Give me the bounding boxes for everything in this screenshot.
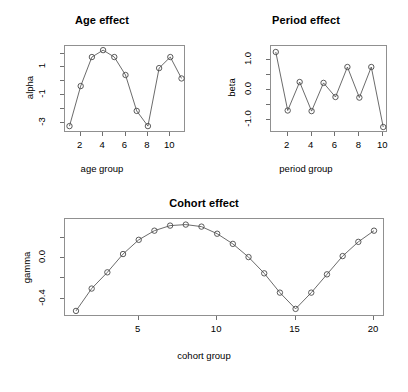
y-tickmark xyxy=(60,66,64,67)
x-tick-label: 5 xyxy=(135,323,140,334)
period-effect-plot-area xyxy=(270,45,387,132)
x-tickmark xyxy=(334,132,335,136)
cohort-effect-series xyxy=(65,219,385,317)
x-tickmark xyxy=(382,132,383,136)
y-tick-label: 1.0 xyxy=(242,41,253,75)
age-effect-title: Age effect xyxy=(0,14,204,26)
cohort-effect-plot-area xyxy=(64,218,384,316)
y-minor-tickmark xyxy=(60,80,64,81)
y-tick-label: 0.0 xyxy=(242,71,253,105)
x-tick-label: 8 xyxy=(356,139,361,150)
y-tickmark xyxy=(60,122,64,123)
cohort-effect-xlabel: cohort group xyxy=(0,350,408,361)
x-tickmark xyxy=(169,132,170,136)
y-tick-label: 0.0 xyxy=(36,240,47,274)
age-effect-ylabel: alpha xyxy=(24,58,35,118)
x-tick-label: 4 xyxy=(99,139,104,150)
y-minor-tickmark xyxy=(266,104,270,105)
x-tick-label: 2 xyxy=(284,139,289,150)
age-effect-series xyxy=(65,46,186,133)
age-effect-plot-area xyxy=(64,45,185,132)
panel-age-effect: Age effect 246810-3-11 age group alpha xyxy=(0,0,204,190)
y-tick-label: 1 xyxy=(36,49,47,83)
panel-cohort-effect: Cohort effect 5101520-0.40.0 cohort grou… xyxy=(0,190,408,392)
x-tick-label: 6 xyxy=(332,139,337,150)
x-tick-label: 10 xyxy=(377,139,388,150)
x-tickmark xyxy=(80,132,81,136)
x-tickmark xyxy=(295,316,296,320)
y-minor-tickmark xyxy=(60,237,64,238)
period-effect-xlabel: period group xyxy=(204,163,408,174)
x-tickmark xyxy=(287,132,288,136)
y-minor-tickmark xyxy=(60,108,64,109)
y-tickmark xyxy=(266,59,270,60)
x-tick-label: 8 xyxy=(144,139,149,150)
x-tick-label: 6 xyxy=(122,139,127,150)
panel-period-effect: Period effect 246810-1.00.01.0 period gr… xyxy=(204,0,408,190)
y-tickmark xyxy=(266,89,270,90)
x-tick-label: 20 xyxy=(368,323,379,334)
x-tick-label: 10 xyxy=(164,139,175,150)
period-effect-ylabel: beta xyxy=(226,58,237,118)
x-tickmark xyxy=(311,132,312,136)
x-tick-label: 15 xyxy=(289,323,300,334)
period-effect-title: Period effect xyxy=(204,14,408,26)
y-minor-tickmark xyxy=(60,53,64,54)
y-minor-tickmark xyxy=(60,277,64,278)
x-tickmark xyxy=(102,132,103,136)
x-tick-label: 4 xyxy=(308,139,313,150)
y-tick-label: -1.0 xyxy=(242,101,253,135)
x-tickmark xyxy=(373,316,374,320)
y-tick-label: -0.4 xyxy=(36,280,47,314)
x-tickmark xyxy=(358,132,359,136)
y-tickmark xyxy=(60,298,64,299)
x-tick-label: 2 xyxy=(77,139,82,150)
y-tickmark xyxy=(266,119,270,120)
x-tickmark xyxy=(138,316,139,320)
x-tickmark xyxy=(216,316,217,320)
x-tickmark xyxy=(147,132,148,136)
y-tickmark xyxy=(60,94,64,95)
period-effect-series xyxy=(271,46,388,133)
y-tickmark xyxy=(60,257,64,258)
x-tickmark xyxy=(125,132,126,136)
age-effect-xlabel: age group xyxy=(0,163,204,174)
y-minor-tickmark xyxy=(266,74,270,75)
cohort-effect-title: Cohort effect xyxy=(0,197,408,209)
cohort-effect-ylabel: gamma xyxy=(21,238,32,298)
x-tick-label: 10 xyxy=(211,323,222,334)
